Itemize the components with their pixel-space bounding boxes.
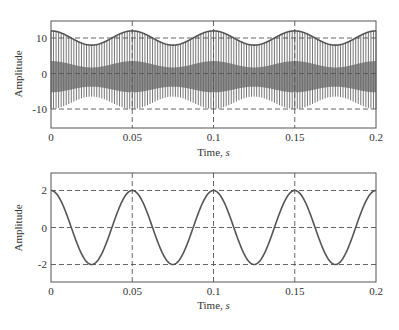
top-xtick-015: 0.15 [285, 131, 305, 143]
bottom-xtick-02: 0.2 [369, 285, 383, 297]
top-ytick-10: 10 [36, 32, 48, 44]
figure: 10 0 -10 0 0.05 0.1 0.15 0.2 Time, s Amp… [0, 0, 399, 330]
top-ylabel: Amplitude [12, 50, 24, 97]
top-xtick-01: 0.1 [207, 131, 221, 143]
bottom-ytick-2: 2 [42, 184, 48, 196]
top-xtick-0: 0 [48, 131, 54, 143]
bottom-xtick-01: 0.1 [207, 285, 221, 297]
top-xlabel: Time, s [197, 146, 230, 158]
top-plot: 10 0 -10 0 0.05 0.1 0.15 0.2 Time, s Amp… [12, 21, 383, 158]
bottom-xlabel: Time, s [197, 299, 230, 311]
top-ytick-neg10: -10 [32, 103, 47, 115]
bottom-ytick-0: 0 [42, 222, 48, 234]
top-xtick-02: 0.2 [369, 131, 383, 143]
top-ytick-0: 0 [42, 68, 48, 80]
bottom-grid [51, 173, 376, 282]
bottom-ytick-neg2: -2 [38, 258, 47, 270]
top-xtick-005: 0.05 [123, 131, 143, 143]
bottom-ylabel: Amplitude [12, 204, 24, 251]
bottom-xtick-015: 0.15 [285, 285, 305, 297]
bottom-xtick-0: 0 [48, 285, 54, 297]
bottom-xtick-005: 0.05 [123, 285, 143, 297]
bottom-plot: 2 0 -2 0 0.05 0.1 0.15 0.2 Time, s Ampli… [12, 173, 383, 311]
